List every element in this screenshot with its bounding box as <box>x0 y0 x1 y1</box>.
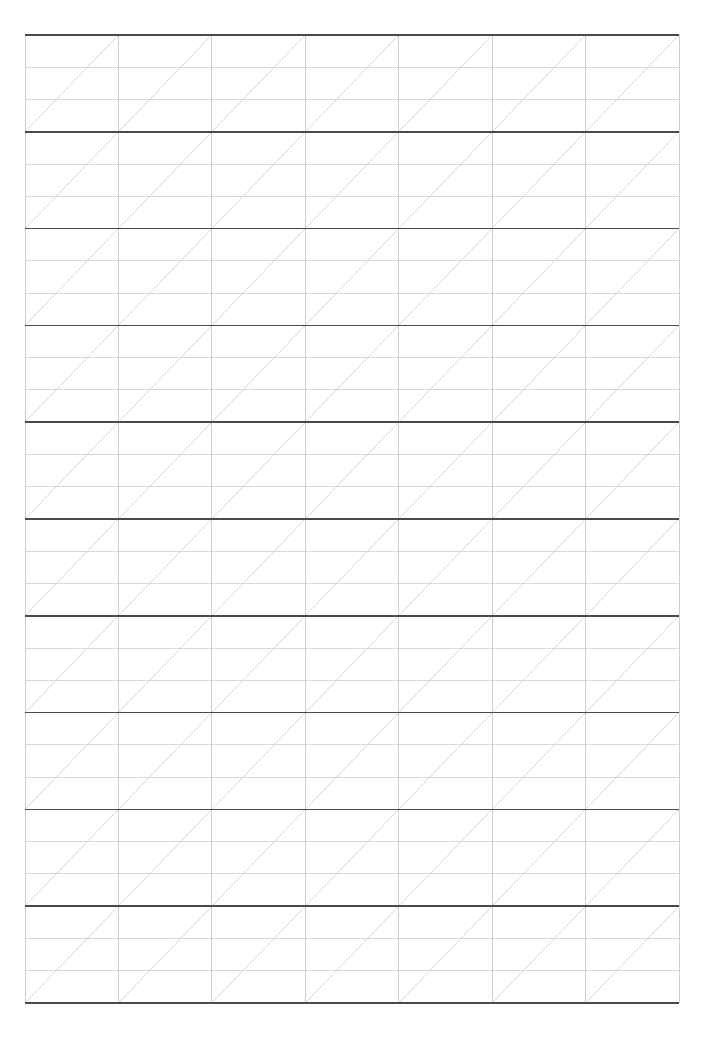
worksheet-page <box>0 0 713 1049</box>
page-background <box>0 0 713 1049</box>
practice-grid <box>0 0 713 1049</box>
